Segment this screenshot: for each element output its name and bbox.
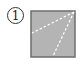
folded-square-diagram [0,0,82,73]
square-shape [31,11,75,57]
